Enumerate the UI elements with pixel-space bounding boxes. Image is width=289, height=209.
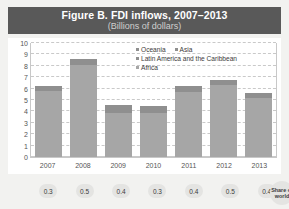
chart-legend: OceaniaAsia Latin America and the Caribb… [136, 45, 276, 72]
x-axis-tick-2012: 2012 [210, 162, 238, 169]
y-axis-tick-3: 3 [24, 119, 28, 126]
x-axis-tick-2010: 2010 [140, 162, 168, 169]
figure-title-banner: Figure B. FDI inflows, 2007–2013 (Billio… [8, 7, 281, 34]
y-axis-tick-1: 1 [24, 142, 28, 149]
legend-swatch-icon [175, 48, 178, 51]
bar-2007 [35, 43, 62, 157]
legend-row-tertiary: Africa [136, 63, 276, 72]
y-axis-tick-2: 2 [24, 131, 28, 138]
y-axis-tick-8: 8 [24, 62, 28, 69]
x-axis-tick-2009: 2009 [104, 162, 132, 169]
share-pill-2008: 0.5 [76, 184, 94, 198]
bar-2008 [70, 43, 97, 157]
share-pill-2007: 0.3 [39, 184, 57, 198]
legend-swatch-icon [136, 48, 139, 51]
x-axis-tick-2008: 2008 [69, 162, 97, 169]
legend-item-latin-america-and-the-caribbean[interactable]: Latin America and the Caribbean [136, 54, 237, 63]
bar-segment-2012-africa [210, 85, 237, 157]
y-axis-tick-0: 0 [24, 154, 28, 161]
y-axis-tick-5: 5 [24, 97, 28, 104]
bar-segment-2007-africa [35, 91, 62, 157]
bar-segment-2009-latin-america-and-the-caribbean [105, 105, 132, 113]
bar-segment-2009-africa [105, 113, 132, 157]
legend-label: Oceania [141, 45, 166, 54]
share-badge-line-2: world [275, 193, 289, 199]
legend-label: Africa [141, 63, 158, 72]
share-of-world-values: 0.30.50.40.30.40.50.4 [30, 182, 285, 200]
share-pill-2012: 0.5 [221, 184, 239, 198]
y-axis-tick-7: 7 [24, 74, 28, 81]
legend-label: Latin America and the Caribbean [141, 54, 237, 63]
legend-item-asia[interactable]: Asia [175, 45, 193, 54]
share-of-world-badge: Share of world [270, 181, 289, 205]
legend-item-africa[interactable]: Africa [136, 63, 158, 72]
y-axis-tick-9: 9 [24, 51, 28, 58]
legend-row-primary: OceaniaAsia [136, 45, 276, 54]
share-pill-2009: 0.4 [112, 184, 130, 198]
legend-swatch-icon [136, 57, 139, 60]
bar-2009 [105, 43, 132, 157]
legend-item-oceania[interactable]: Oceania [136, 45, 166, 54]
figure-title: Figure B. FDI inflows, 2007–2013 [61, 9, 227, 21]
bar-segment-2010-africa [140, 113, 167, 157]
share-pill-2011: 0.4 [185, 184, 203, 198]
y-axis-tick-4: 4 [24, 108, 28, 115]
share-pill-2010: 0.3 [148, 184, 166, 198]
x-axis-tick-2007: 2007 [34, 162, 62, 169]
plot-frame: 012345678910 200720082009201020112012201… [8, 38, 281, 174]
y-axis-tick-10: 10 [20, 40, 28, 47]
x-axis-tick-labels: 2007200820092010201120122013 [30, 159, 277, 172]
figure-subtitle: (Billions of dollars) [108, 21, 182, 32]
x-axis-tick-2013: 2013 [246, 162, 274, 169]
bar-segment-2013-africa [245, 98, 272, 157]
bar-segment-2010-latin-america-and-the-caribbean [140, 106, 167, 113]
bar-segment-2011-africa [175, 92, 202, 157]
y-axis-tick-6: 6 [24, 85, 28, 92]
legend-swatch-icon [136, 66, 139, 69]
figure-container: Figure B. FDI inflows, 2007–2013 (Billio… [0, 0, 289, 209]
bar-segment-2008-africa [70, 65, 97, 157]
x-axis-tick-2011: 2011 [175, 162, 203, 169]
legend-row-secondary: Latin America and the Caribbean [136, 54, 276, 63]
legend-label: Asia [180, 45, 193, 54]
